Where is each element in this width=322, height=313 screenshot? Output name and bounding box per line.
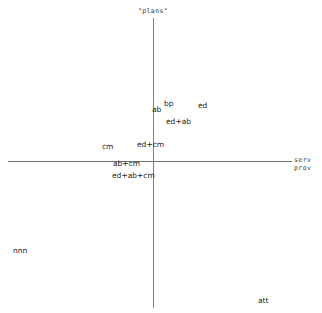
x-axis-title: serv prov xyxy=(294,156,311,172)
horizontal-axis-line xyxy=(8,161,292,162)
point-label: ed xyxy=(198,101,207,110)
point-label: ed+cm xyxy=(137,140,164,149)
point-label: ab xyxy=(152,105,161,114)
point-label: ed+ab xyxy=(166,117,191,126)
point-label: nnn xyxy=(13,246,27,255)
point-label: cm xyxy=(102,142,113,151)
correspondence-plot: "plans" serv prov bpedabed+abed+cmcmab+c… xyxy=(0,0,322,313)
point-label: att xyxy=(258,296,268,305)
y-axis-title: "plans" xyxy=(138,7,168,15)
x-axis-title-line1: serv xyxy=(294,156,311,164)
x-axis-title-line2: prov xyxy=(294,164,311,172)
point-label: ed+ab+cm xyxy=(112,171,155,180)
point-label: ab+cm xyxy=(113,159,140,168)
vertical-axis-line xyxy=(153,18,154,308)
point-label: bp xyxy=(164,99,174,108)
